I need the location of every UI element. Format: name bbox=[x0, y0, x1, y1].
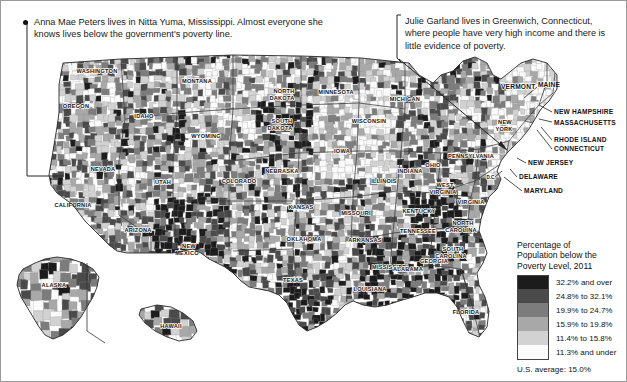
county bbox=[344, 107, 350, 113]
county bbox=[71, 338, 79, 343]
county bbox=[315, 172, 321, 180]
county bbox=[504, 238, 513, 245]
county bbox=[448, 146, 454, 151]
county bbox=[306, 172, 312, 179]
county bbox=[98, 254, 108, 264]
county bbox=[352, 127, 358, 135]
state-label: INDIANA bbox=[397, 168, 422, 174]
county bbox=[410, 82, 418, 87]
county bbox=[185, 270, 191, 276]
county bbox=[99, 339, 108, 351]
county bbox=[161, 281, 170, 287]
county bbox=[506, 217, 514, 225]
county bbox=[384, 81, 390, 89]
county bbox=[205, 122, 212, 128]
county bbox=[91, 237, 96, 245]
county bbox=[544, 110, 552, 117]
county bbox=[549, 222, 558, 230]
county bbox=[108, 172, 115, 177]
county bbox=[504, 132, 510, 138]
county bbox=[493, 320, 499, 327]
label-leader-line bbox=[537, 130, 552, 149]
county bbox=[134, 148, 140, 155]
county bbox=[256, 158, 262, 163]
county bbox=[532, 140, 540, 148]
county bbox=[456, 172, 462, 178]
county bbox=[436, 314, 443, 321]
legend-swatch bbox=[517, 289, 549, 303]
county bbox=[185, 102, 192, 108]
county bbox=[557, 90, 562, 98]
county bbox=[494, 62, 501, 70]
legend-swatch bbox=[517, 345, 549, 360]
county bbox=[505, 244, 510, 252]
county bbox=[190, 308, 199, 319]
county bbox=[345, 101, 351, 107]
county bbox=[532, 219, 539, 227]
county bbox=[199, 307, 207, 313]
state-label: IOWA bbox=[334, 148, 350, 154]
county bbox=[262, 339, 271, 346]
county bbox=[15, 318, 23, 330]
county bbox=[403, 326, 410, 333]
county bbox=[385, 327, 390, 334]
county bbox=[70, 75, 78, 80]
county bbox=[186, 281, 193, 288]
county bbox=[155, 262, 160, 270]
county bbox=[101, 263, 109, 270]
county bbox=[429, 65, 435, 73]
legend-class-list: 32.2% and over24.8% to 32.1%19.9% to 24.… bbox=[517, 275, 623, 359]
county bbox=[161, 339, 168, 345]
county bbox=[57, 96, 63, 103]
county bbox=[455, 161, 461, 167]
county bbox=[70, 217, 78, 226]
state-label: KANSAS bbox=[288, 204, 313, 210]
county bbox=[139, 147, 144, 153]
county bbox=[45, 238, 54, 245]
counties-lower48 bbox=[43, 49, 573, 349]
county bbox=[513, 198, 522, 204]
county bbox=[488, 302, 495, 307]
county bbox=[102, 250, 111, 256]
county bbox=[274, 305, 279, 311]
county bbox=[127, 81, 133, 87]
county bbox=[440, 308, 446, 314]
county bbox=[242, 68, 250, 74]
county bbox=[161, 197, 166, 203]
county bbox=[280, 134, 289, 139]
county bbox=[261, 51, 266, 58]
county bbox=[492, 325, 502, 331]
county bbox=[281, 58, 289, 63]
county bbox=[530, 198, 538, 204]
county bbox=[389, 242, 398, 248]
county bbox=[441, 65, 446, 71]
county bbox=[142, 299, 149, 307]
county bbox=[378, 146, 383, 154]
county bbox=[474, 82, 481, 89]
county bbox=[219, 166, 224, 172]
county bbox=[545, 209, 554, 216]
county bbox=[256, 165, 261, 170]
county bbox=[512, 212, 520, 217]
county bbox=[255, 313, 262, 320]
county bbox=[255, 320, 262, 328]
state-label: MISSOURI bbox=[341, 210, 371, 216]
county bbox=[397, 327, 404, 334]
county bbox=[243, 289, 251, 297]
county bbox=[480, 277, 486, 285]
county bbox=[500, 184, 505, 191]
county bbox=[102, 52, 110, 59]
county bbox=[564, 78, 571, 85]
county bbox=[307, 96, 312, 103]
county bbox=[237, 295, 243, 301]
county bbox=[377, 338, 383, 343]
county bbox=[441, 333, 447, 340]
county bbox=[79, 232, 86, 238]
county bbox=[565, 63, 573, 71]
county bbox=[206, 339, 213, 347]
county bbox=[449, 168, 454, 173]
legend-title-line-3: Poverty Level, 2011 bbox=[517, 261, 623, 271]
county bbox=[224, 294, 233, 302]
county bbox=[200, 326, 207, 334]
county bbox=[258, 293, 264, 299]
